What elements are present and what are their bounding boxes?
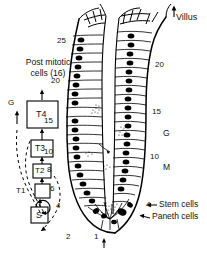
position-label-left-4: 4 [56,202,60,211]
annotation-stem-cells: Stem cells [159,200,198,210]
transit-box-t1-label: T1 [16,186,25,195]
position-label-bottom-1: 1 [94,233,98,242]
position-label-right-15: 15 [152,108,161,117]
villus-base-flares [79,4,171,27]
position-label-left-6: 6 [50,185,54,194]
base-upward-arrow-icon [102,238,106,248]
zone-label-g: G [163,128,170,138]
villus-label: Villus [176,13,197,23]
position-label-right-10: 10 [150,153,159,162]
position-label-right-20: 20 [155,61,164,70]
post-mitotic-title-line2: cells (16) [6,69,90,79]
position-label-left-20: 20 [51,77,60,86]
position-label-left-25: 25 [57,37,66,46]
crypt-base [88,199,134,230]
annotation-paneth-cells: Paneth cells [152,212,198,222]
position-label-right-4: 4 [146,201,150,210]
position-label-left-8: 8 [47,166,51,175]
feedback-arrowhead [41,227,46,231]
self-renewal-arrowhead [42,211,47,215]
transit-box-t2-label[interactable]: T2 [35,166,44,175]
position-label-left-15: 15 [44,117,53,126]
figure-canvas: Post mitotic cells (16) G T4 T3 T2 T1 S … [0,0,207,254]
g-compartment-arrow [15,111,19,125]
lineage-compartment-label-g: G [8,98,14,107]
post-mitotic-title-line1: Post mitotic [6,58,90,68]
zone-label-m: M [163,162,170,172]
paneth-cells-pointer-arrow [140,214,151,218]
stem-box-s-label[interactable]: S [36,210,42,220]
position-label-left-10: 10 [44,148,53,157]
mitotic-figures [85,104,126,169]
position-label-left-2: 2 [66,233,70,242]
